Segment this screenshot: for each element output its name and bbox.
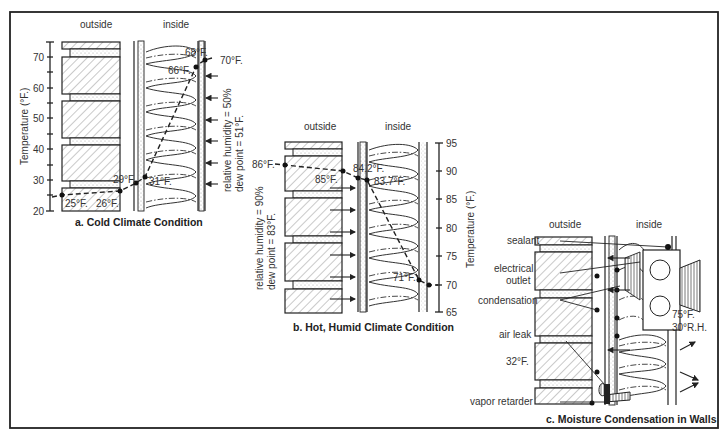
callout-sealant: sealant: [507, 235, 539, 246]
panel-b-temperature-axis: 95 90 85 80 75 70 65 Temperature (°F.): [435, 138, 476, 318]
panel-a-temp-31: 31°F.: [149, 176, 172, 187]
panel-a-temp-66: 66°F.: [168, 65, 191, 76]
callout-condensation: condensation: [478, 295, 538, 306]
panel-b-temp-85: 85°F.: [315, 174, 338, 185]
panel-b-caption: b. Hot, Humid Climate Condition: [293, 321, 454, 333]
panel-c-outside-label: outside: [549, 219, 582, 230]
callout-air-leak: air leak: [499, 329, 532, 340]
panel-b-tick-75: 75: [446, 251, 458, 262]
panel-b-hot-humid-climate: outside inside: [252, 121, 476, 333]
panel-a-caption: a. Cold Climate Condition: [75, 216, 203, 228]
panel-c-interior-temp: 75°F.: [672, 309, 695, 320]
panel-a-tick-60: 60: [33, 83, 45, 94]
panel-a-tick-50: 50: [33, 113, 45, 124]
panel-a-relative-humidity: relative humidity = 50%: [222, 88, 233, 192]
panel-a-inside-label: inside: [163, 19, 190, 30]
panel-b-tick-65: 65: [446, 307, 458, 318]
panel-b-inside-label: inside: [385, 121, 412, 132]
callout-outlet: outlet: [506, 275, 531, 286]
panel-a-temp-25: 25°F.: [65, 198, 88, 209]
callout-32f: 32°F.: [506, 356, 529, 367]
panel-a-cold-climate: outside inside 70 60 50 40 30 20 Tempera…: [19, 19, 245, 228]
panel-a-tick-40: 40: [33, 144, 45, 155]
panel-c-moisture-condensation: outside inside: [470, 219, 717, 425]
panel-a-temp-26: 26°F.: [96, 198, 119, 209]
panel-b-dew-point: dew point = 83°F.: [266, 213, 277, 290]
callout-vapor-retarder: vapor retarder: [470, 396, 533, 407]
panel-b-outside-label: outside: [304, 121, 337, 132]
panel-c-inner-wall: [590, 236, 701, 406]
plug-icon: [680, 260, 700, 312]
panel-a-temp-68: 68°F.: [185, 47, 208, 58]
panel-a-temp-29: 29°F.: [113, 174, 136, 185]
panel-b-relative-humidity: relative humidity = 90%: [254, 186, 265, 290]
panel-a-tick-30: 30: [33, 175, 45, 186]
panel-a-dew-point: dew point = 51°F.: [234, 115, 245, 192]
panel-b-tick-85: 85: [446, 194, 458, 205]
panel-b-temp-86: 86°F.: [252, 159, 275, 170]
panel-b-tick-70: 70: [446, 280, 458, 291]
panel-c-interior-rh: 30°R.H.: [672, 322, 707, 333]
panel-a-temp-70: 70°F.: [220, 55, 243, 66]
panel-b-tick-80: 80: [446, 223, 458, 234]
panel-b-temp-84-2: 84.2°F.: [353, 163, 384, 174]
panel-c-inside-label: inside: [636, 219, 663, 230]
panel-c-caption: c. Moisture Condensation in Walls: [546, 413, 717, 425]
panel-a-tick-20: 20: [33, 206, 45, 217]
panel-a-brick-wall: [62, 42, 120, 211]
panel-c-brick-wall: [535, 237, 592, 404]
callout-electrical: electrical: [494, 263, 533, 274]
panel-b-tick-95: 95: [446, 138, 458, 149]
panel-a-axis-label: Temperature (°F.): [19, 88, 30, 165]
panel-b-temp-71: 71°F.: [393, 272, 416, 283]
panel-b-brick-wall: [285, 142, 355, 313]
panel-b-tick-90: 90: [446, 166, 458, 177]
panel-a-tick-70: 70: [33, 52, 45, 63]
outlet-socket-icon: [650, 260, 670, 280]
panel-a-outside-label: outside: [80, 19, 113, 30]
outlet-socket-icon: [650, 296, 670, 316]
panel-b-temp-83-7: 83.7°F.: [374, 176, 405, 187]
wall-moisture-diagram: outside inside 70 60 50 40 30 20 Tempera…: [0, 0, 726, 441]
panel-a-temperature-axis: 70 60 50 40 30 20 Temperature (°F.): [19, 42, 54, 217]
panel-b-axis-label: Temperature (°F.): [465, 191, 476, 268]
